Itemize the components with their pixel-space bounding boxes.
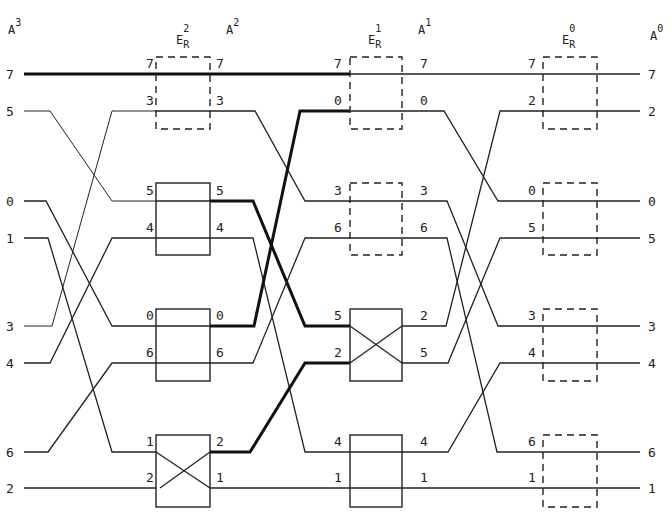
label-A1-7: 1 (420, 470, 428, 485)
wire-4-A3 (24, 238, 156, 363)
label-ER0-in-5: 4 (528, 345, 536, 360)
label-A1-6: 4 (420, 434, 428, 449)
labels-A0: 7 2 0 5 3 4 6 1 (648, 67, 656, 496)
label-ER1-in-7: 1 (334, 470, 342, 485)
wires-stage-A1-to-ER0 (402, 111, 543, 488)
label-A3-0: 7 (6, 67, 14, 82)
stage-headers: A3 E2R A2 E1R A1 E0R A0 (8, 17, 663, 50)
switch-ER1-3-pass (350, 452, 402, 488)
label-A2-1: 3 (216, 93, 224, 108)
label-ER0-in-6: 6 (528, 434, 536, 449)
label-A2-7: 1 (216, 470, 224, 485)
label-ER0-in-3: 5 (528, 220, 536, 235)
labels-ER1-in: 7 0 3 6 5 2 4 1 (334, 56, 342, 485)
label-ER2-in-1: 3 (146, 93, 154, 108)
label-ER1-in-1: 0 (334, 93, 342, 108)
label-ER0-in-0: 7 (528, 56, 536, 71)
label-ER2-in-3: 4 (146, 220, 154, 235)
label-ER2-in-7: 2 (146, 470, 154, 485)
label-A1-2: 3 (420, 183, 428, 198)
label-ER1-in-5: 2 (334, 345, 342, 360)
label-ER1-in-2: 3 (334, 183, 342, 198)
labels-A2: 7 3 5 4 0 6 2 1 (216, 56, 224, 485)
wire-5-A3 (24, 111, 156, 201)
wire-1-A3 (24, 238, 156, 452)
wire-6-A2 (210, 238, 350, 363)
switch-ER2-1-pass (156, 201, 210, 238)
label-A0-4: 3 (648, 319, 656, 334)
label-ER0-in-2: 0 (528, 183, 536, 198)
label-ER2-in-6: 1 (146, 434, 154, 449)
header-ER2: E2R (176, 23, 190, 50)
switch-ER2-2 (156, 309, 210, 381)
wires-stage-A2-to-ER1 (210, 111, 350, 488)
label-A0-3: 5 (648, 231, 656, 246)
label-A2-5: 6 (216, 345, 224, 360)
wire-2-A1 (402, 111, 543, 326)
label-A2-2: 5 (216, 183, 224, 198)
switch-column-ER2 (156, 57, 210, 507)
labels-A3: 7 5 0 1 3 4 6 2 (6, 67, 14, 496)
header-A2: A2 (226, 17, 239, 37)
label-A1-4: 2 (420, 308, 428, 323)
label-A0-1: 2 (648, 104, 656, 119)
wire-3-A2 (210, 111, 350, 201)
wire-5-A2 (210, 201, 350, 326)
labels-ER0-in: 7 2 0 5 3 4 6 1 (528, 56, 536, 485)
switch-ER0-0 (543, 57, 597, 129)
label-ER1-in-3: 6 (334, 220, 342, 235)
label-ER0-in-4: 3 (528, 308, 536, 323)
header-ER0: E0R (562, 23, 576, 50)
labels-ER2-in: 7 3 5 4 0 6 1 2 (146, 56, 154, 485)
switch-column-ER0 (543, 57, 640, 507)
header-A1: A1 (418, 17, 431, 37)
switch-ER1-1 (350, 183, 402, 255)
label-A2-3: 4 (216, 220, 224, 235)
label-A1-5: 5 (420, 345, 428, 360)
switch-ER2-2-pass (156, 326, 210, 363)
label-A0-5: 4 (648, 356, 656, 371)
label-ER0-in-7: 1 (528, 470, 536, 485)
label-A1-1: 0 (420, 93, 428, 108)
switch-ER0-2 (543, 309, 597, 381)
label-ER0-in-1: 2 (528, 93, 536, 108)
switch-ER0-1 (543, 183, 597, 255)
switch-ER0-3 (543, 435, 597, 507)
wire-2-A2 (210, 363, 350, 452)
label-A0-2: 0 (648, 194, 656, 209)
label-ER1-in-6: 4 (334, 434, 342, 449)
label-A2-6: 2 (216, 434, 224, 449)
label-A3-5: 4 (6, 356, 14, 371)
wires-A0-outputs (543, 111, 640, 488)
label-ER1-in-0: 7 (334, 56, 342, 71)
label-ER2-in-5: 6 (146, 345, 154, 360)
label-ER2-in-4: 0 (146, 308, 154, 323)
label-A3-4: 3 (6, 319, 14, 334)
header-A3: A3 (8, 17, 21, 37)
label-ER2-in-0: 7 (146, 56, 154, 71)
wire-0-A2 (210, 111, 350, 326)
switch-ER2-1 (156, 183, 210, 255)
label-A3-7: 2 (6, 481, 14, 496)
label-A1-3: 6 (420, 220, 428, 235)
label-ER1-in-4: 5 (334, 308, 342, 323)
label-A3-3: 1 (6, 231, 14, 246)
labels-A1: 7 0 3 6 2 5 4 1 (420, 56, 428, 485)
label-A0-6: 6 (648, 445, 656, 460)
switch-ER1-1-pass (350, 201, 402, 238)
wire-3-A3 (24, 111, 156, 326)
header-ER1: E1R (368, 23, 382, 50)
label-A2-4: 0 (216, 308, 224, 323)
label-A3-6: 6 (6, 445, 14, 460)
label-A3-1: 5 (6, 104, 14, 119)
wire-0-A3 (24, 201, 156, 326)
switch-ER1-0 (350, 57, 402, 129)
switch-ER2-0 (156, 57, 210, 129)
wires-stage-A3-to-ER2 (24, 74, 350, 488)
label-A0-7: 1 (648, 481, 656, 496)
label-A1-0: 7 (420, 56, 428, 71)
label-A0-0: 7 (648, 67, 656, 82)
header-A0: A0 (650, 23, 663, 43)
label-ER2-in-2: 5 (146, 183, 154, 198)
label-A2-0: 7 (216, 56, 224, 71)
